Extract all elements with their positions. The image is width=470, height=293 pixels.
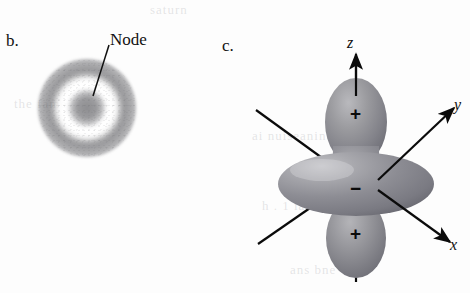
lobe-sign-torus: − (350, 179, 361, 198)
orbital-grain-texture (38, 59, 136, 157)
axis-label-x: x (450, 236, 457, 254)
node-annotation-label: Node (110, 30, 147, 50)
axis-label-y: y (454, 96, 461, 114)
figure-canvas: saturnthe fameai nuiseaninh . 1 iaans bn… (0, 0, 470, 293)
ghost-text-0: saturn (150, 2, 188, 18)
dz2-orbital-diagram: + − + z y x (250, 28, 470, 286)
torus-highlight (290, 159, 354, 181)
2s-orbital-cloud (38, 59, 136, 157)
panel-c-label: c. (222, 36, 234, 56)
lobe-sign-bottom: + (350, 224, 361, 243)
panel-b-label: b. (6, 31, 19, 51)
lobe-sign-top: + (350, 104, 361, 123)
dz2-orbital-svg (250, 28, 470, 286)
axis-label-z: z (347, 34, 353, 52)
